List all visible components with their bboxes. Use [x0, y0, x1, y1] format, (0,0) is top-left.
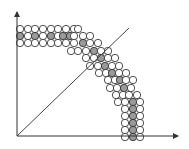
gray-particle — [120, 84, 127, 91]
white-particle — [79, 32, 86, 39]
white-particle — [136, 119, 143, 126]
white-particle — [133, 91, 140, 98]
white-particle — [24, 32, 31, 39]
white-particle — [39, 25, 46, 32]
white-particle — [129, 76, 136, 83]
white-particle — [31, 39, 38, 46]
white-particle — [136, 98, 143, 105]
white-particle — [74, 47, 81, 54]
white-particle — [136, 105, 143, 112]
white-particle — [90, 54, 97, 61]
gray-particle — [90, 47, 97, 54]
gray-particle — [129, 105, 136, 112]
white-particle — [115, 69, 122, 76]
white-particle — [62, 39, 69, 46]
white-particle — [70, 32, 77, 39]
white-particle — [106, 84, 113, 91]
white-particle — [47, 25, 54, 32]
white-particle — [136, 126, 143, 133]
gray-particle — [108, 69, 115, 76]
white-particle — [54, 25, 61, 32]
white-particle — [115, 62, 122, 69]
white-particle — [112, 91, 119, 98]
diagram-svg — [0, 0, 189, 149]
gray-particle — [129, 119, 136, 126]
white-particle — [136, 133, 143, 140]
white-particle — [70, 39, 77, 46]
gray-particle — [129, 112, 136, 119]
white-particle — [121, 126, 128, 133]
diagram-canvas — [0, 0, 189, 149]
gray-particle — [129, 133, 136, 140]
white-particle — [47, 39, 54, 46]
gray-particle — [129, 98, 136, 105]
white-particle — [82, 47, 89, 54]
white-particle — [62, 25, 69, 32]
white-particle — [121, 105, 128, 112]
white-particle — [39, 32, 46, 39]
gray-particle — [129, 126, 136, 133]
white-particle — [121, 119, 128, 126]
white-particle — [67, 47, 74, 54]
white-particle — [122, 76, 129, 83]
white-particle — [24, 39, 31, 46]
gray-particle — [59, 32, 66, 39]
white-particle — [108, 62, 115, 69]
white-particle — [136, 112, 143, 119]
white-particle — [74, 25, 81, 32]
white-particle — [113, 84, 120, 91]
white-particle — [94, 39, 101, 46]
particle-band — [16, 25, 143, 140]
white-particle — [97, 47, 104, 54]
white-particle — [114, 98, 121, 105]
gray-particle — [101, 62, 108, 69]
white-particle — [121, 133, 128, 140]
white-particle — [54, 39, 61, 46]
white-particle — [24, 25, 31, 32]
gray-particle — [31, 32, 38, 39]
white-particle — [82, 54, 89, 61]
white-particle — [111, 54, 118, 61]
gray-particle — [79, 39, 86, 46]
white-particle — [121, 98, 128, 105]
white-particle — [39, 39, 46, 46]
white-particle — [31, 25, 38, 32]
white-particle — [95, 69, 102, 76]
white-particle — [86, 32, 93, 39]
white-particle — [94, 62, 101, 69]
white-particle — [86, 39, 93, 46]
white-particle — [104, 54, 111, 61]
white-particle — [122, 69, 129, 76]
white-particle — [104, 76, 111, 83]
gray-particle — [47, 32, 54, 39]
white-particle — [127, 84, 134, 91]
white-particle — [125, 91, 132, 98]
white-particle — [121, 112, 128, 119]
